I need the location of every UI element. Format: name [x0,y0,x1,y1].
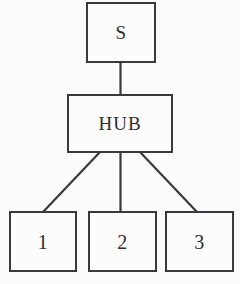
edge-hub-to-client-3 [140,152,197,212]
node-client-1[interactable]: 1 [9,211,77,272]
node-client-1-label: 1 [38,232,49,252]
node-source[interactable]: S [86,2,156,63]
node-hub-label: HUB [98,114,141,133]
node-client-3-label: 3 [194,232,205,252]
node-hub[interactable]: HUB [67,94,173,153]
node-source-label: S [115,23,126,42]
node-client-2[interactable]: 2 [88,211,157,272]
network-diagram: S HUB 1 2 3 [0,0,240,284]
edge-hub-to-client-1 [43,152,100,212]
node-client-3[interactable]: 3 [165,211,234,272]
node-client-2-label: 2 [117,232,128,252]
